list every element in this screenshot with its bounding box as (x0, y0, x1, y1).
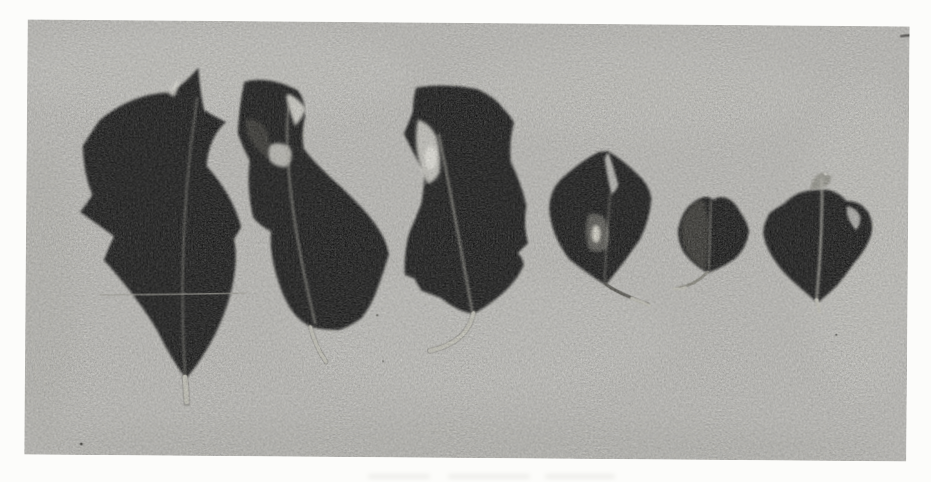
leaf-photograph (24, 20, 909, 462)
caption-ghost-fragment (448, 474, 530, 479)
caption-ghost-fragment (545, 474, 615, 479)
photo-canvas (24, 20, 909, 462)
caption-ghost-fragment (368, 474, 430, 479)
grain-light-overlay (24, 20, 909, 462)
page (0, 0, 931, 482)
